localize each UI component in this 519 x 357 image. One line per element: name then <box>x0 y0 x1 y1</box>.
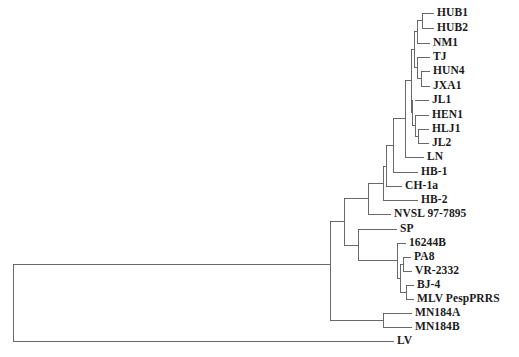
taxon-label-mn184b: MN184B <box>415 321 460 333</box>
taxon-label-jxa1: JXA1 <box>433 80 462 92</box>
taxon-label-hb-1: HB-1 <box>421 166 448 178</box>
taxon-label-hen1: HEN1 <box>432 109 463 121</box>
taxon-label-mn184a: MN184A <box>415 307 460 319</box>
taxon-label-sp: SP <box>400 223 414 235</box>
taxon-label-mlv-pespprrs: MLV PespPRRS <box>417 293 500 305</box>
taxon-label-ch-1a: CH-1a <box>405 180 438 192</box>
branch-group <box>13 13 434 341</box>
taxon-label-jl1: JL1 <box>432 94 451 106</box>
taxon-label-nvsl-97-7895: NVSL 97-7895 <box>394 208 466 220</box>
taxon-label-tj: TJ <box>433 51 447 63</box>
taxon-label-jl2: JL2 <box>432 137 451 149</box>
taxon-label-hun4: HUN4 <box>433 65 465 77</box>
taxon-label-vr-2332: VR-2332 <box>415 265 459 277</box>
taxon-label-ln: LN <box>427 151 443 163</box>
taxon-label-16244b: 16244B <box>409 237 446 249</box>
taxon-label-hlj1: HLJ1 <box>432 123 461 135</box>
taxon-label-hub2: HUB2 <box>437 22 468 34</box>
phylogenetic-tree-figure: HUB1HUB2NM1TJHUN4JXA1JL1HEN1HLJ1JL2LNHB-… <box>0 0 519 357</box>
taxon-label-hub1: HUB1 <box>437 7 468 19</box>
taxon-label-lv: LV <box>397 335 412 347</box>
taxon-label-pa8: PA8 <box>414 251 435 263</box>
taxon-label-hb-2: HB-2 <box>421 194 448 206</box>
taxon-label-nm1: NM1 <box>433 37 458 49</box>
taxon-label-bj-4: BJ-4 <box>417 279 440 291</box>
